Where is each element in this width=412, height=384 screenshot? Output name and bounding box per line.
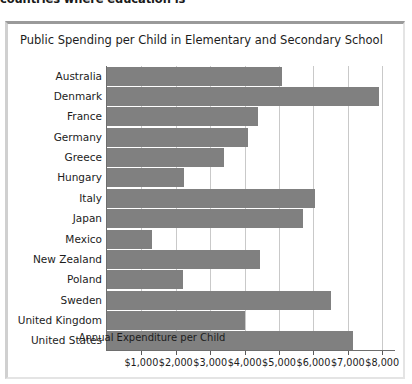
x-axis-title: Annual Expenditure per Child (79, 332, 226, 343)
bar-row (107, 311, 396, 330)
x-axis-tick (210, 351, 211, 355)
x-axis-tick-label: $2,000 (159, 357, 193, 368)
bar (107, 230, 152, 249)
category-label: Hungary (8, 168, 102, 187)
bar-row (107, 270, 396, 289)
category-axis-labels: AustraliaDenmarkFranceGermanyGreeceHunga… (8, 66, 102, 351)
bar-row (107, 107, 396, 126)
x-axis-tick-label: $6,000 (296, 357, 330, 368)
category-label: United Kingdom (8, 311, 102, 330)
x-axis-tick (279, 351, 280, 355)
category-label: Denmark (8, 87, 102, 106)
clipped-page-heading: countries where education is (0, 0, 412, 6)
category-label: Poland (8, 270, 102, 289)
bar (107, 107, 258, 126)
chart-figure-panel: Public Spending per Child in Elementary … (5, 21, 405, 379)
x-axis-tick (141, 351, 142, 355)
bar-row (107, 189, 396, 208)
bar-row (107, 209, 396, 228)
bar-row (107, 67, 396, 86)
category-label: New Zealand (8, 250, 102, 269)
plot-area: $1,000$2,000$3,000$4,000$5,000$6,000$7,0… (106, 66, 395, 351)
bar (107, 209, 303, 228)
x-axis-tick-label: $5,000 (262, 357, 296, 368)
bar-row (107, 87, 396, 106)
x-axis-tick-label: $7,000 (331, 357, 365, 368)
bar (107, 189, 315, 208)
bar (107, 168, 184, 187)
bar (107, 128, 248, 147)
category-label: Italy (8, 189, 102, 208)
category-label: Mexico (8, 230, 102, 249)
x-axis-tick (245, 351, 246, 355)
bar (107, 67, 282, 86)
bar-row (107, 250, 396, 269)
x-axis-tick (176, 351, 177, 355)
x-axis-tick (313, 351, 314, 355)
x-axis-tick-label: $1,000 (124, 357, 158, 368)
category-label: France (8, 107, 102, 126)
bar-row (107, 168, 396, 187)
x-axis-tick (348, 351, 349, 355)
chart-title: Public Spending per Child in Elementary … (20, 33, 383, 47)
bar-row (107, 230, 396, 249)
x-axis-tick-label: $3,000 (193, 357, 227, 368)
category-label: Japan (8, 209, 102, 228)
bar (107, 148, 224, 167)
x-axis-tick-label: $4,000 (228, 357, 262, 368)
category-label: Sweden (8, 291, 102, 310)
bar (107, 87, 379, 106)
bar-row (107, 148, 396, 167)
x-axis-tick (382, 351, 383, 355)
bar (107, 270, 183, 289)
bar (107, 250, 260, 269)
bar (107, 291, 331, 310)
bar-row (107, 128, 396, 147)
bar (107, 311, 245, 330)
category-label: Australia (8, 67, 102, 86)
category-label: Germany (8, 128, 102, 147)
x-axis-tick-label: $8,000 (365, 357, 399, 368)
bar-row (107, 291, 396, 310)
category-label: Greece (8, 148, 102, 167)
